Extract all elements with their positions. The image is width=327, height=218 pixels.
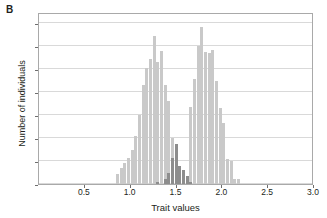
histogram-bar: [197, 46, 200, 184]
panel-label: B: [6, 5, 13, 15]
histogram-bar: [237, 179, 240, 184]
histogram-bar: [120, 168, 123, 184]
histogram-bar: [171, 158, 174, 184]
x-axis-tick-mark: [221, 185, 222, 188]
histogram-bar: [219, 108, 222, 184]
histogram-bar: [138, 115, 141, 184]
histogram-bar: [116, 174, 119, 184]
histogram-bar: [153, 36, 156, 184]
histogram-bar: [186, 176, 189, 184]
histogram-bar: [127, 158, 130, 184]
x-axis-tick-label: 2.5: [247, 188, 287, 197]
histogram-bar: [167, 173, 170, 184]
histogram-bar: [164, 179, 167, 184]
histogram-bar: [164, 85, 167, 184]
histogram-bar: [215, 81, 218, 184]
histogram-bar: [149, 59, 152, 184]
x-axis-tick-label: 1.0: [110, 188, 150, 197]
histogram-bar: [193, 79, 196, 184]
histogram-bar: [156, 182, 159, 184]
histogram-bar: [211, 50, 214, 184]
y-axis-label: Number of individuals: [18, 34, 27, 174]
histogram-bar: [160, 51, 163, 184]
histogram-bar: [134, 136, 137, 184]
x-axis-tick-mark: [130, 185, 131, 188]
histogram-bar: [182, 170, 185, 184]
histogram-bar: [230, 161, 233, 184]
histogram-bar: [178, 166, 181, 184]
x-axis-tick-mark: [176, 185, 177, 188]
x-axis-tick-label: 0.5: [64, 188, 104, 197]
histogram-bar: [175, 144, 178, 184]
x-axis-tick-label: 3.0: [293, 188, 327, 197]
histogram-bars: [39, 14, 312, 184]
histogram-bar: [189, 107, 192, 184]
histogram-bar: [145, 68, 148, 184]
histogram-bar: [142, 85, 145, 184]
histogram-bar: [156, 62, 159, 184]
histogram-bar: [222, 123, 225, 184]
histogram-bar: [233, 179, 236, 184]
plot-area: [38, 13, 313, 185]
histogram-bar: [131, 150, 134, 184]
x-axis-label: Trait values: [38, 203, 313, 213]
x-axis-tick-mark: [84, 185, 85, 188]
histogram-bar: [204, 52, 207, 184]
histogram-bar: [123, 163, 126, 184]
histogram-bar: [208, 53, 211, 184]
histogram-bar: [189, 182, 192, 184]
x-axis-tick-label: 1.5: [156, 188, 196, 197]
x-axis-tick-mark: [267, 185, 268, 188]
histogram-bar: [226, 159, 229, 184]
histogram-bar: [200, 27, 203, 184]
x-axis-tick-mark: [313, 185, 314, 188]
y-axis-tick-mark: [35, 185, 38, 186]
x-axis-tick-label: 2.0: [201, 188, 241, 197]
